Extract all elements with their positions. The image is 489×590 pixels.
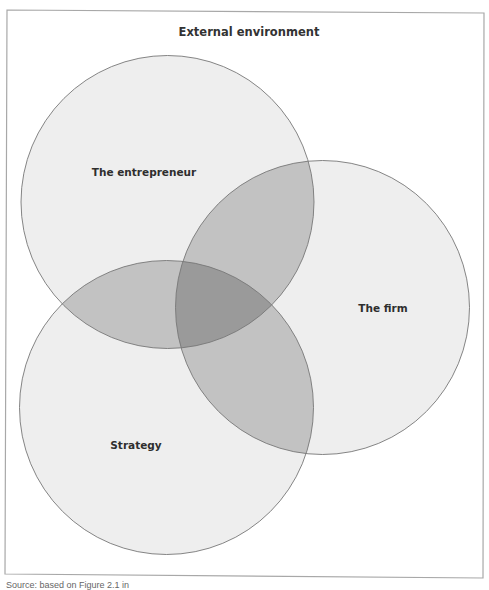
firm-label: The firm — [358, 302, 407, 314]
figure-caption: Source: based on Figure 2.1 in — [6, 580, 129, 590]
external-environment-label: External environment — [179, 25, 320, 39]
entrepreneur-label: The entrepreneur — [92, 166, 197, 178]
strategy-label: Strategy — [110, 439, 162, 451]
